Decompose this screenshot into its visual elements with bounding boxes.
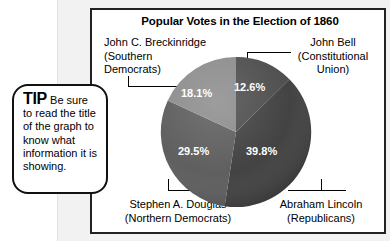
annotation-breckinridge-line1: John C. Breckinridge — [104, 36, 206, 50]
pie-shading-overlay — [161, 57, 311, 207]
pie-chart-svg — [156, 52, 316, 212]
pie-label-breckinridge: 18.1% — [181, 87, 212, 99]
pie-label-bell: 12.6% — [234, 81, 265, 93]
figure-container: Popular Votes in the Election of 1860 Jo… — [90, 8, 386, 234]
tip-callout-body: TIP Be sure to read the title of the gra… — [23, 92, 98, 173]
pie-chart: 12.6% 39.8% 29.5% 18.1% — [156, 52, 316, 212]
chart-title: Popular Votes in the Election of 1860 — [92, 15, 388, 27]
tip-callout: TIP Be sure to read the title of the gra… — [12, 84, 108, 194]
annotation-douglas-line2: (Northern Democrats) — [104, 212, 252, 226]
annotation-lincoln-line2: (Republicans) — [262, 212, 380, 226]
annotation-bell-line1: John Bell — [280, 36, 386, 50]
pie-label-lincoln: 39.8% — [246, 145, 277, 157]
screenshot-root: Popular Votes in the Election of 1860 Jo… — [0, 0, 390, 241]
pie-label-douglas: 29.5% — [178, 145, 209, 157]
tip-keyword: TIP — [23, 90, 47, 107]
leader-line-lincoln-tick — [321, 179, 322, 191]
